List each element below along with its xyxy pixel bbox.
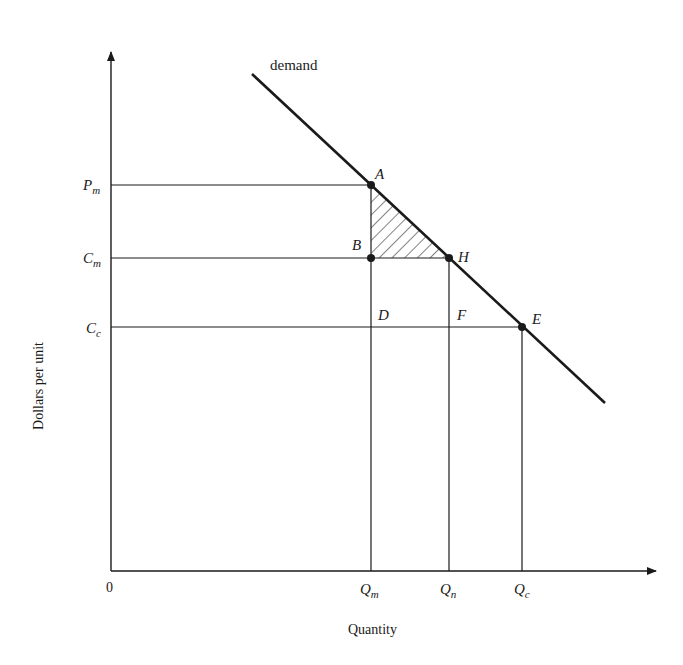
point-b-label: B	[352, 237, 361, 253]
demand-label: demand	[270, 57, 318, 73]
x-tick-qc: Qc	[514, 581, 530, 600]
y-tick-cm: Cm	[83, 250, 101, 269]
point-a-label: A	[374, 166, 385, 182]
point-e-dot	[518, 323, 526, 331]
x-tick-qm: Qm	[360, 581, 379, 600]
x-tick-qn: Qn	[440, 581, 457, 600]
point-h-dot	[445, 254, 453, 262]
y-tick-cc: Cc	[86, 320, 101, 339]
point-e-label: E	[531, 311, 541, 327]
point-h-label: H	[457, 249, 470, 265]
y-axis-title: Dollars per unit	[31, 342, 46, 430]
economics-diagram: demand A B H D F E Pm Cm Cc 0 Qm Qn Qc Q…	[0, 0, 683, 665]
x-axis-title: Quantity	[348, 622, 397, 637]
point-d-label: D	[377, 307, 389, 323]
origin-label: 0	[106, 580, 113, 595]
diagram-canvas: demand A B H D F E Pm Cm Cc 0 Qm Qn Qc Q…	[0, 0, 683, 665]
point-b-dot	[367, 254, 375, 262]
point-a-dot	[367, 181, 375, 189]
point-f-label: F	[456, 307, 467, 323]
demand-curve	[252, 74, 605, 403]
y-tick-pm: Pm	[82, 177, 100, 196]
